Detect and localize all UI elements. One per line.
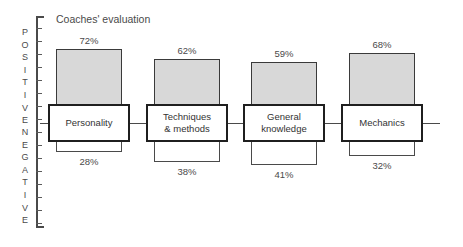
axis-tick — [36, 54, 42, 55]
axis-letter: E — [22, 116, 28, 125]
positive-value-label: 62% — [154, 45, 220, 56]
axis-letter: N — [22, 128, 29, 137]
axis-tick — [36, 28, 42, 29]
axis-tick — [36, 145, 42, 146]
axis-label-positive: POSITIVE — [18, 28, 32, 129]
axis-tick — [36, 132, 42, 133]
axis-letter: T — [22, 78, 28, 87]
axis-letter: I — [24, 66, 27, 75]
axis-tick — [36, 93, 42, 94]
axis-tick — [36, 197, 42, 198]
axis-letter: P — [22, 28, 28, 37]
baseline-segment — [40, 123, 48, 124]
axis-label-negative: NEGATIVE — [18, 128, 32, 229]
baseline-segment — [130, 123, 146, 124]
axis-tick — [36, 184, 42, 185]
negative-value-label: 38% — [154, 166, 220, 177]
axis-tick — [36, 158, 42, 159]
negative-value-label: 32% — [349, 160, 415, 171]
positive-bar — [154, 59, 220, 108]
baseline-segment — [423, 123, 440, 124]
chart-title: Coaches' evaluation — [56, 13, 150, 25]
positive-bar — [251, 62, 317, 108]
axis-letter: I — [24, 191, 27, 200]
category-label: General knowledge — [261, 111, 306, 134]
axis-tick — [36, 171, 42, 172]
axis-letter: T — [22, 178, 28, 187]
positive-value-label: 68% — [349, 39, 415, 50]
negative-bar — [251, 138, 317, 165]
axis-letter: I — [24, 91, 27, 100]
category-label: Personality — [66, 117, 113, 129]
axis-tick — [36, 80, 42, 81]
axis-tick — [36, 119, 42, 120]
category-box[interactable]: Mechanics — [341, 104, 423, 142]
axis-tick — [36, 223, 42, 224]
positive-bar — [349, 53, 415, 108]
negative-value-label: 28% — [56, 156, 122, 167]
category-label: Mechanics — [359, 117, 404, 129]
axis-letter: E — [22, 216, 28, 225]
baseline-segment — [228, 123, 243, 124]
axis-letter: O — [21, 41, 28, 50]
axis-letter: V — [22, 104, 28, 113]
positive-bar — [56, 49, 122, 108]
axis-tick — [36, 67, 42, 68]
category-box[interactable]: General knowledge — [243, 104, 325, 142]
axis-letter: G — [21, 153, 28, 162]
axis-letter: S — [22, 53, 28, 62]
positive-value-label: 72% — [56, 35, 122, 46]
category-label: Techniques & methods — [163, 111, 211, 134]
axis-tick — [36, 210, 42, 211]
category-box[interactable]: Techniques & methods — [146, 104, 228, 142]
negative-value-label: 41% — [251, 169, 317, 180]
axis-letter: E — [22, 141, 28, 150]
positive-value-label: 59% — [251, 48, 317, 59]
baseline-segment — [325, 123, 341, 124]
axis-letter: A — [22, 166, 28, 175]
axis-tick — [36, 106, 42, 107]
axis-letter: V — [22, 204, 28, 213]
category-box[interactable]: Personality — [48, 104, 130, 142]
coaches-evaluation-chart: Coaches' evaluation POSITIVE NEGATIVE 72… — [0, 0, 463, 247]
axis-tick — [36, 41, 42, 42]
